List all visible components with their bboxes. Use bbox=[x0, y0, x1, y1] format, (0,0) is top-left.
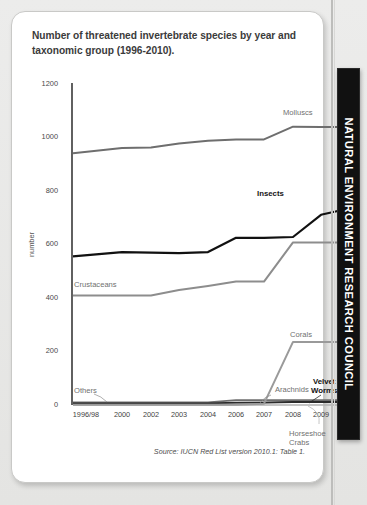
chart-series-group bbox=[73, 127, 350, 405]
page-edge-line-2 bbox=[334, 0, 335, 505]
chart-card: Number of threatened invertebrate specie… bbox=[11, 11, 324, 483]
series-label-insects: Insects bbox=[257, 189, 284, 198]
source-note: Source: IUCN Red List version 2010.1: Ta… bbox=[154, 447, 305, 456]
horseshoe-crabs-line2: Crabs bbox=[289, 438, 326, 447]
page-edge-line-1 bbox=[331, 0, 333, 505]
annotation-leader-lines bbox=[94, 394, 321, 424]
series-label-others: Others bbox=[74, 386, 97, 395]
series-label-horseshoe-crabs: Horseshoe Crabs bbox=[289, 429, 326, 447]
series-line-molluscs bbox=[73, 127, 350, 154]
series-label-molluscs: Molluscs bbox=[283, 108, 313, 117]
series-label-arachnids: Arachnids bbox=[275, 385, 309, 394]
series-line-insects bbox=[73, 208, 350, 256]
series-line-corals bbox=[73, 342, 350, 405]
brand-text: NATURAL ENVIRONMENT RESEARCH COUNCIL bbox=[343, 117, 355, 390]
leader-line-horseshoe-crabs bbox=[308, 406, 319, 424]
chart-plot-area: 1200 1000 800 600 400 200 0 number 1996/… bbox=[12, 12, 323, 482]
series-label-crustaceans: Crustaceans bbox=[74, 280, 117, 289]
horseshoe-crabs-line1: Horseshoe bbox=[289, 429, 326, 438]
chart-svg bbox=[12, 12, 367, 482]
page-background: Number of threatened invertebrate specie… bbox=[0, 0, 367, 505]
leader-line-others bbox=[94, 394, 107, 402]
brand-band: NATURAL ENVIRONMENT RESEARCH COUNCIL bbox=[337, 68, 360, 440]
series-label-corals: Corals bbox=[290, 330, 312, 339]
